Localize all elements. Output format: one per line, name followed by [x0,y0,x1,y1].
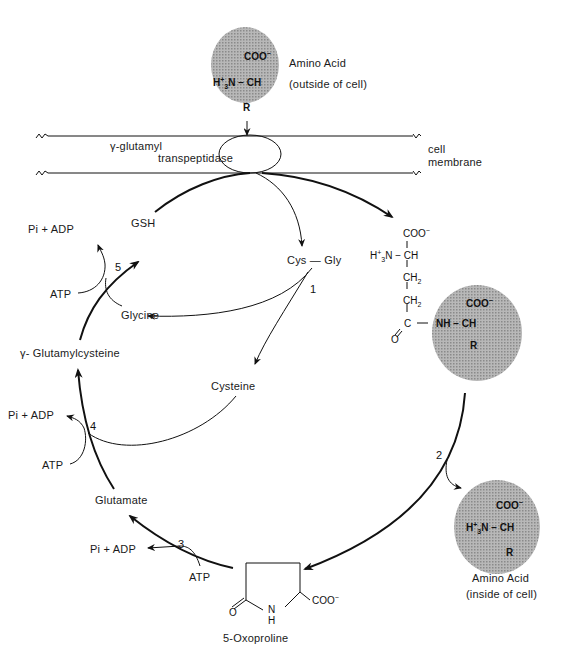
aa-outside-label-1: Amino Acid [289,57,346,69]
step-1: 1 [310,283,316,295]
ggaa-ch2-b: CH2 [403,295,421,306]
step3-atp: ATP [189,571,210,583]
step4-products: Pi + ADP [8,409,54,421]
metabolite-gamma-glutamylcysteine: γ- Glutamylcysteine [20,347,120,359]
step4-cofactor-arc [67,416,86,464]
aa-inside-amine: H+3N − CH [466,522,514,533]
metabolite-oxoproline: 5-Oxoproline [223,632,288,644]
enzyme-label-1: γ-glutamyl [110,140,162,152]
metabolite-glycine: Glycine [121,309,159,321]
ggaa-aa-coo: COO− [466,298,493,309]
cycle-diagram-canvas [0,0,575,655]
ggaa-r: R [470,340,477,351]
ggaa-amine: H+3N − CH [370,250,418,261]
aa-inside-coo: COO− [496,500,523,511]
arc-membrane-to-cysgly [256,173,302,246]
step-3: 3 [178,538,184,550]
oxoproline-coo: COO− [312,595,339,606]
ggaa-nh-link: NH − CH [436,318,476,329]
step-5: 5 [115,261,121,273]
metabolite-gsh: GSH [131,217,155,229]
aa-inside-r: R [506,547,513,558]
ggaa-oxygen: O [391,334,399,345]
step3-products: Pi + ADP [90,543,136,555]
membrane-label-1: cell [428,143,445,155]
aa-outside-coo: COO− [244,51,271,62]
step5-cofactor-arc [78,245,105,293]
step3-cofactor-arc [148,546,200,566]
arc-ggc-to-gsh [80,262,138,340]
metabolite-cys-gly: Cys — Gly [287,254,341,266]
step5-products: Pi + ADP [28,223,74,235]
arc-cysgly-to-cysteine [255,272,308,364]
aa-outside-r: R [243,102,250,113]
ggaa-carbonyl: C [404,318,411,329]
ggaa-ch2-a: CH2 [403,272,421,283]
enzyme-label-2: transpeptidase [158,152,233,164]
oxoproline-h: H [268,615,275,626]
aa-outside-amine: H+3N − CH [213,77,261,88]
step-2: 2 [436,449,442,461]
arc-to-oxoproline [305,393,465,569]
step5-atp: ATP [50,288,71,300]
step-4: 4 [90,420,96,432]
step4-atp: ATP [42,459,63,471]
step2-release-arc [446,460,461,488]
oxoproline-ring [232,563,310,610]
membrane-label-2: membrane [428,156,482,168]
amino-acid-outside-sphere [211,27,279,103]
aa-outside-label-2: (outside of cell) [289,78,367,90]
aa-inside-label-2: (inside of cell) [466,588,537,600]
oxoproline-o: O [229,607,237,618]
arc-gsh-to-membrane [155,173,250,212]
metabolite-cysteine: Cysteine [211,380,255,392]
arc-membrane-to-gamma-glutamyl-aa [262,173,392,217]
arc-cysgly-to-glycine [148,268,312,316]
ggaa-coo: COO− [403,228,430,239]
cysteine-into-step4 [88,396,236,445]
oxoproline-n: N [268,604,275,615]
metabolite-glutamate: Glutamate [95,494,148,506]
aa-inside-label-1: Amino Acid [472,572,529,584]
